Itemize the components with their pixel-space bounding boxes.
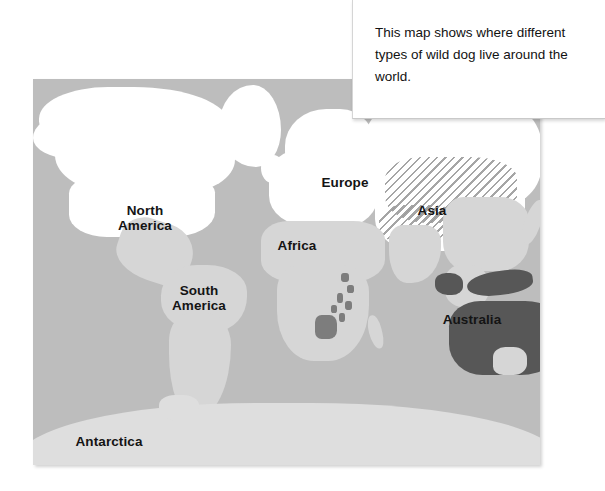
map-label-australia: Australia — [425, 312, 519, 327]
landmass-western-australia-uncolored — [493, 347, 527, 375]
map-label-north-america: North America — [101, 203, 189, 233]
landmass-indonesia-borneo — [435, 273, 463, 295]
landmass-sub-saharan-africa — [277, 265, 369, 361]
african-wild-dog-range-east-africa-a — [341, 273, 349, 282]
african-wild-dog-range-east-africa-b — [347, 285, 354, 293]
map-label-south-america: South America — [155, 283, 243, 313]
african-wild-dog-range-east-africa-f — [339, 313, 345, 322]
world-distribution-map: North America South America Europe Asia … — [33, 79, 540, 465]
caption-text: This map shows where different types of … — [375, 22, 585, 88]
map-label-antarctica: Antarctica — [54, 434, 164, 449]
african-wild-dog-range-east-africa-e — [331, 305, 337, 313]
landmass-british-isles — [261, 155, 283, 183]
map-label-asia: Asia — [401, 203, 463, 218]
african-wild-dog-range-southern-africa — [315, 315, 337, 339]
african-wild-dog-range-east-africa-c — [337, 293, 343, 303]
caption-callout-box: This map shows where different types of … — [352, 0, 605, 119]
map-label-europe: Europe — [307, 175, 383, 190]
landmass-antarctic-peninsula — [159, 395, 199, 421]
african-wild-dog-range-east-africa-d — [345, 301, 352, 310]
map-label-africa: Africa — [259, 238, 335, 253]
